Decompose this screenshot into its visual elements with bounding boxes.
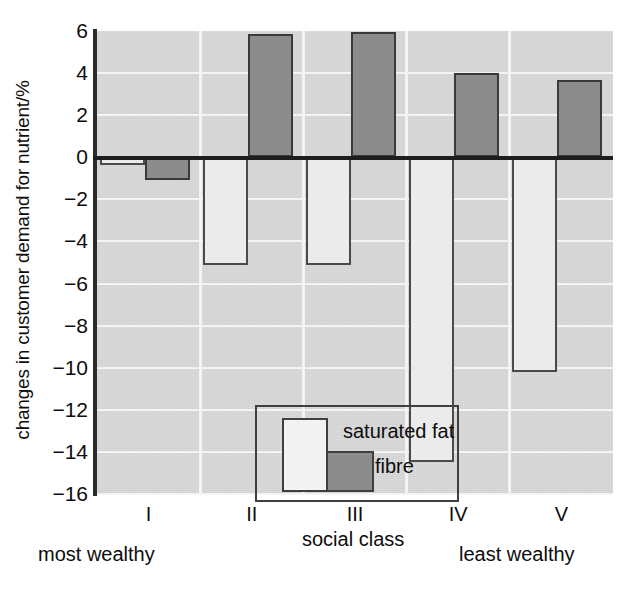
legend-swatch-fibre [326,451,374,492]
y-tick-label: −6 [2,273,88,294]
y-tick-label: 4 [2,62,88,83]
bar-saturated-fat-II [203,157,248,264]
x-tick-label-I: I [109,503,189,526]
y-axis-spine [93,29,97,496]
bar-fibre-III [351,32,396,157]
y-tick-label: −10 [2,357,88,378]
x-tick-label-II: II [212,503,292,526]
y-axis-tick-labels: 6420−2−4−6−8−10−12−14−16 [0,0,88,595]
annotation-least-wealthy: least wealthy [459,543,575,566]
y-tick-label: −8 [2,315,88,336]
bar-chart-figure: changes in customer demand for nutrient/… [0,0,630,595]
legend: saturated fat fibre [255,405,459,502]
zero-baseline [93,156,613,160]
x-tick-label-V: V [521,503,601,526]
y-tick-label: −16 [2,483,88,504]
annotation-most-wealthy: most wealthy [38,543,155,566]
y-tick-label: 6 [2,20,88,41]
y-tick-label: −2 [2,188,88,209]
y-tick-label: 0 [2,146,88,167]
y-tick-label: 2 [2,104,88,125]
legend-label-fibre: fibre [375,455,414,478]
y-tick-label: −14 [2,441,88,462]
bar-fibre-I [145,157,190,180]
bar-saturated-fat-III [306,157,351,264]
gridline-vertical [199,31,202,494]
x-tick-label-III: III [315,503,395,526]
legend-swatch-saturated-fat [282,418,328,492]
bar-fibre-IV [454,73,499,157]
y-tick-label: −4 [2,230,88,251]
y-tick-label: −12 [2,399,88,420]
x-tick-label-IV: IV [418,503,498,526]
annotation-social-class: social class [302,528,404,551]
legend-label-saturated-fat: saturated fat [343,420,454,443]
plot-area: saturated fat fibre [97,31,613,494]
bar-saturated-fat-V [512,157,557,372]
gridline-vertical [508,31,511,494]
bar-fibre-V [557,80,602,157]
bar-fibre-II [248,34,293,157]
